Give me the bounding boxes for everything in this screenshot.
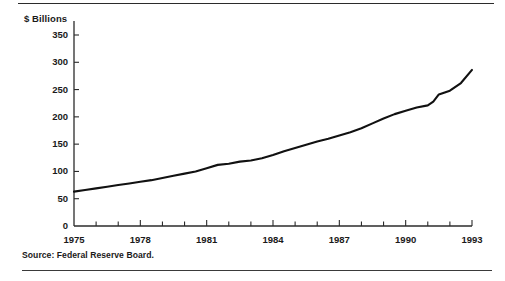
y-axis-tick-label: 250 [34,84,68,95]
chart-figure: $ Billions 050100150200250300350 1975197… [0,0,505,281]
x-axis-tick-label: 1975 [52,234,96,245]
y-axis-tick-label: 200 [34,111,68,122]
data-line-currency-in-circulation [74,70,472,192]
x-axis-tick-label: 1987 [317,234,361,245]
y-axis-tick-label: 50 [34,193,68,204]
y-axis-tick-label: 100 [34,165,68,176]
x-axis-tick-label: 1978 [118,234,162,245]
x-axis-tick-label: 1984 [251,234,295,245]
y-axis-tick-label: 150 [34,138,68,149]
y-axis-tick-label: 300 [34,56,68,67]
y-axis-tick-label: 350 [34,29,68,40]
x-axis-tick-label: 1981 [185,234,229,245]
x-axis-tick-label: 1990 [384,234,428,245]
x-axis-tick-label: 1993 [450,234,494,245]
y-axis-tick-label: 0 [34,220,68,231]
bottom-divider-rule [22,270,492,271]
source-note: Source: Federal Reserve Board. [22,250,154,260]
